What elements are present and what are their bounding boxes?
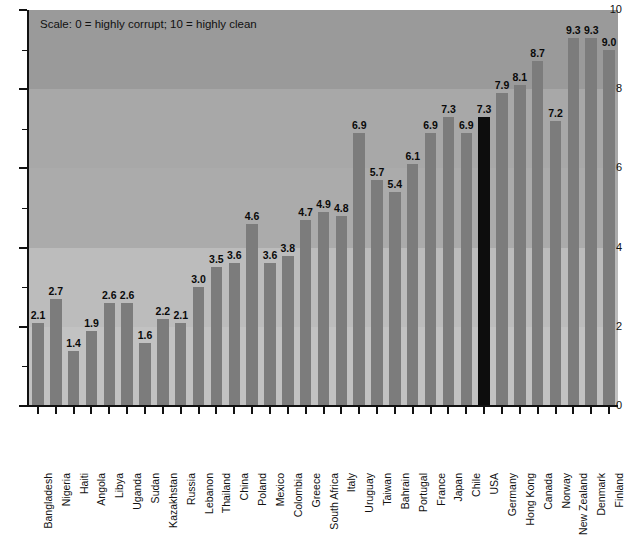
bar-value-label: 4.6 bbox=[239, 211, 265, 222]
bar bbox=[585, 38, 597, 406]
x-axis-category-label: Germany bbox=[506, 426, 518, 471]
x-axis-category-label-text: Greece bbox=[310, 471, 322, 507]
y-axis-tick-label: 2 bbox=[605, 321, 622, 331]
bar-value-label: 5.4 bbox=[382, 179, 408, 190]
bar-value-label: 3.6 bbox=[221, 250, 247, 261]
bar bbox=[300, 220, 312, 406]
bar-value-label: 7.3 bbox=[435, 104, 461, 115]
bars-layer: 2.12.71.41.92.62.61.62.22.13.03.53.64.63… bbox=[29, 10, 618, 406]
x-axis-category-label: USA bbox=[488, 447, 500, 471]
bar bbox=[389, 192, 401, 406]
x-axis-category-label-text: France bbox=[435, 471, 447, 506]
bar-value-label: 3.8 bbox=[275, 243, 301, 254]
x-axis-category-label: Angola bbox=[95, 436, 107, 471]
x-axis-category-label-text: Denmark bbox=[595, 471, 607, 516]
y-axis-tick-label: 8 bbox=[605, 83, 622, 93]
scale-annotation: Scale: 0 = highly corrupt; 10 = highly c… bbox=[40, 18, 257, 30]
x-axis-category-label: Hong Kong bbox=[524, 416, 536, 471]
bar-value-label: 4.8 bbox=[328, 203, 354, 214]
bar bbox=[371, 180, 383, 406]
x-axis-category-label: Bangladesh bbox=[42, 414, 54, 471]
x-axis-category-label: Sudan bbox=[149, 439, 161, 471]
y-axis-minor-tick bbox=[22, 50, 27, 51]
x-axis-category-label-text: Bahrain bbox=[399, 471, 411, 509]
bar-value-label: 3.0 bbox=[186, 274, 212, 285]
x-axis-category-label-text: Italy bbox=[345, 471, 357, 492]
x-axis-category-label: Haiti bbox=[78, 448, 90, 471]
x-axis-category-label: Kazakhstan bbox=[167, 414, 179, 471]
x-axis-category-label: Uruguay bbox=[363, 429, 375, 471]
x-axis-category-label: South Africa bbox=[328, 412, 340, 471]
bar bbox=[425, 133, 437, 406]
x-axis-category-label-text: Haiti bbox=[78, 471, 90, 494]
bar bbox=[461, 133, 473, 406]
x-axis-category-label-text: Bangladesh bbox=[42, 471, 54, 528]
x-axis-category-label: Chile bbox=[470, 445, 482, 471]
y-axis-tick bbox=[19, 167, 27, 169]
x-axis-category-label-text: Colombia bbox=[292, 471, 304, 517]
x-axis-category-label-text: Canada bbox=[542, 471, 554, 510]
y-axis-minor-tick bbox=[22, 208, 27, 209]
bar-value-label: 6.9 bbox=[418, 120, 444, 131]
bar bbox=[318, 212, 330, 406]
y-axis-tick bbox=[19, 326, 27, 328]
x-axis-category-label: Uganda bbox=[131, 432, 143, 471]
x-axis-category-label: Denmark bbox=[595, 426, 607, 471]
bar-value-label: 2.7 bbox=[43, 286, 69, 297]
x-axis-category-label: Taiwan bbox=[381, 436, 393, 471]
x-axis-category-label-text: Uruguay bbox=[363, 471, 375, 513]
x-axis-category-label-text: Norway bbox=[560, 471, 572, 509]
y-axis-line bbox=[27, 10, 29, 406]
x-axis-category-label: Norway bbox=[560, 433, 572, 471]
x-axis-category-label-text: South Africa bbox=[328, 471, 340, 530]
x-axis-category-label: Portugal bbox=[417, 430, 429, 471]
x-axis-category-label: Mexico bbox=[274, 436, 286, 471]
y-axis-minor-tick bbox=[22, 129, 27, 130]
x-axis-category-label: Italy bbox=[345, 450, 357, 471]
bar bbox=[139, 343, 151, 406]
bar-value-label: 1.9 bbox=[78, 318, 104, 329]
bar-value-label: 2.1 bbox=[29, 310, 51, 321]
x-axis-category-label: Canada bbox=[542, 432, 554, 471]
x-axis-category-label: Poland bbox=[256, 436, 268, 471]
x-axis-category-label-text: Taiwan bbox=[381, 471, 393, 506]
bar bbox=[478, 117, 490, 406]
x-axis-category-label: Libya bbox=[113, 444, 125, 471]
bar bbox=[550, 121, 562, 406]
x-axis-category-label-text: USA bbox=[488, 471, 500, 495]
bar-value-label: 6.1 bbox=[400, 151, 426, 162]
x-axis-category-label-text: Japan bbox=[452, 471, 464, 502]
bar bbox=[496, 93, 508, 406]
bar bbox=[157, 319, 169, 406]
x-axis-category-label-text: Finland bbox=[613, 471, 625, 507]
bar-value-label: 9.3 bbox=[578, 25, 604, 36]
y-axis-tick bbox=[19, 88, 27, 90]
x-axis-category-label-text: Russia bbox=[185, 471, 197, 505]
bar-value-label: 8.1 bbox=[507, 72, 533, 83]
bar bbox=[282, 256, 294, 406]
bar bbox=[568, 38, 580, 406]
x-axis-category-label: Colombia bbox=[292, 425, 304, 471]
bar bbox=[104, 303, 116, 406]
bar bbox=[336, 216, 348, 406]
x-axis-category-label-text: New Zealand bbox=[577, 471, 589, 535]
x-axis-category-label-text: Thailand bbox=[220, 471, 232, 513]
y-axis-tick bbox=[19, 9, 27, 11]
bar bbox=[193, 287, 205, 406]
x-axis-category-label-text: China bbox=[238, 471, 250, 500]
y-axis-minor-tick bbox=[22, 287, 27, 288]
bar bbox=[175, 323, 187, 406]
bar bbox=[68, 351, 80, 406]
bar bbox=[50, 299, 62, 406]
x-axis-category-label-text: Kazakhstan bbox=[167, 471, 179, 528]
bar bbox=[603, 50, 615, 406]
bar-value-label: 5.7 bbox=[364, 167, 390, 178]
y-axis-tick-label: 6 bbox=[605, 162, 622, 172]
x-axis-category-label-text: Mexico bbox=[274, 471, 286, 506]
x-axis-category-label: Nigeria bbox=[60, 436, 72, 471]
x-axis-category-label-text: Chile bbox=[470, 471, 482, 497]
plot-area: 2.12.71.41.92.62.61.62.22.13.03.53.64.63… bbox=[29, 10, 618, 406]
bar-value-label: 2.1 bbox=[168, 310, 194, 321]
x-axis-category-label-text: Angola bbox=[95, 471, 107, 506]
